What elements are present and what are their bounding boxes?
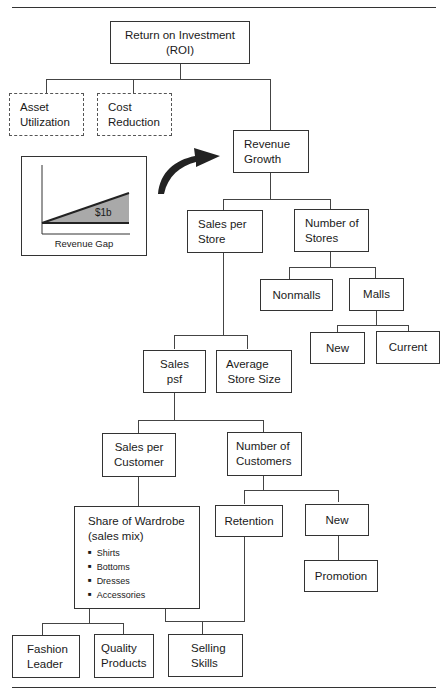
- connector: [46, 79, 47, 94]
- connector: [138, 420, 139, 434]
- node-label: Sales: [160, 357, 189, 372]
- node-label: Asset: [20, 100, 49, 115]
- node-revenue-growth: Revenue Growth: [233, 130, 309, 173]
- node-label: Sales per: [115, 440, 164, 455]
- node-roi-line2: (ROI): [166, 43, 194, 58]
- bottom-rule: [12, 687, 436, 688]
- connector: [270, 172, 271, 199]
- sales-mix-list: Shirts Bottoms Dresses Accessories: [88, 546, 145, 602]
- node-sales-per-store: Sales per Store: [187, 210, 263, 253]
- node-label: Sales per: [198, 217, 247, 232]
- connector: [244, 490, 245, 504]
- node-customers-new: New: [305, 504, 369, 536]
- node-sales-per-customer: Sales per Customer: [102, 433, 176, 477]
- connector: [165, 621, 245, 622]
- node-label: Products: [101, 656, 146, 671]
- connector: [42, 623, 124, 624]
- connector: [138, 420, 264, 421]
- node-share-of-wardrobe: Share of Wardrobe (sales mix) Shirts Bot…: [74, 506, 200, 609]
- connector: [263, 475, 264, 490]
- node-label: Fashion: [27, 642, 68, 657]
- connector: [247, 335, 248, 349]
- node-label: Store: [198, 232, 226, 247]
- node-selling-skills: Selling Skills: [168, 634, 243, 677]
- node-label: Number of: [305, 216, 359, 231]
- node-label: Share of Wardrobe: [88, 514, 185, 529]
- node-roi-line1: Return on Investment: [125, 28, 235, 43]
- connector: [202, 621, 203, 635]
- revenue-gap-chart: $1b Revenue Gap: [21, 156, 147, 256]
- list-item: Shirts: [88, 546, 145, 560]
- node-fashion-leader: Fashion Leader: [12, 635, 80, 678]
- node-label: Customers: [236, 454, 292, 469]
- node-average-store-size: Average Store Size: [216, 350, 292, 393]
- list-item: Accessories: [88, 588, 145, 602]
- node-label: Skills: [191, 656, 218, 671]
- node-label: Leader: [27, 657, 63, 672]
- node-label: (sales mix): [88, 529, 144, 544]
- node-malls-current: Current: [376, 331, 440, 364]
- list-item: Bottoms: [88, 560, 145, 574]
- node-promotion: Promotion: [304, 560, 378, 592]
- connector: [330, 251, 331, 268]
- connector: [223, 252, 224, 336]
- node-label: Current: [389, 340, 427, 355]
- gap-label: $1b: [95, 207, 112, 218]
- connector: [89, 608, 90, 624]
- node-label: Promotion: [315, 569, 367, 584]
- node-malls: Malls: [349, 278, 404, 311]
- node-label: Quality: [101, 641, 137, 656]
- node-label: Average: [217, 357, 269, 372]
- connector: [174, 335, 175, 349]
- connector: [263, 420, 264, 432]
- node-label: Customer: [114, 455, 164, 470]
- connector: [46, 79, 271, 80]
- node-label: psf: [167, 372, 182, 387]
- node-retention: Retention: [215, 505, 283, 537]
- connector: [133, 79, 134, 93]
- node-label: Malls: [363, 287, 390, 302]
- connector: [289, 267, 376, 268]
- node-cost-reduction: Cost Reduction: [97, 93, 172, 136]
- connector: [244, 536, 245, 621]
- curved-arrow-icon: [150, 142, 230, 202]
- chart-caption: Revenue Gap: [22, 238, 146, 249]
- node-label: Nonmalls: [273, 288, 321, 303]
- connector: [270, 79, 271, 131]
- connector: [180, 63, 181, 79]
- node-label: Reduction: [108, 115, 160, 130]
- connector: [174, 392, 175, 420]
- connector: [223, 199, 331, 200]
- node-label: Store Size: [227, 372, 280, 387]
- connector: [174, 335, 248, 336]
- node-malls-new: New: [310, 332, 365, 364]
- connector: [376, 310, 377, 326]
- connector: [338, 490, 339, 502]
- node-label: Revenue: [244, 137, 290, 152]
- node-label: New: [326, 341, 349, 356]
- node-label: Selling: [191, 641, 226, 656]
- node-roi: Return on Investment (ROI): [110, 21, 250, 64]
- node-sales-psf: Sales psf: [143, 350, 206, 393]
- node-label: Utilization: [20, 115, 70, 130]
- node-label: Number of: [236, 439, 290, 454]
- connector: [244, 490, 339, 491]
- node-quality-products: Quality Products: [94, 634, 154, 678]
- node-asset-utilization: Asset Utilization: [9, 93, 84, 136]
- connector: [337, 325, 409, 326]
- node-nonmalls: Nonmalls: [260, 279, 333, 311]
- connector: [42, 623, 43, 635]
- top-rule: [12, 7, 436, 8]
- node-label: Retention: [224, 514, 273, 529]
- node-number-of-stores: Number of Stores: [294, 209, 369, 252]
- node-number-of-customers: Number of Customers: [227, 432, 302, 476]
- connector: [289, 267, 290, 279]
- connector: [165, 608, 166, 622]
- list-item: Dresses: [88, 574, 145, 588]
- node-label: Stores: [305, 231, 338, 246]
- node-label: Cost: [108, 100, 132, 115]
- node-label: Growth: [244, 152, 281, 167]
- node-label: New: [325, 513, 348, 528]
